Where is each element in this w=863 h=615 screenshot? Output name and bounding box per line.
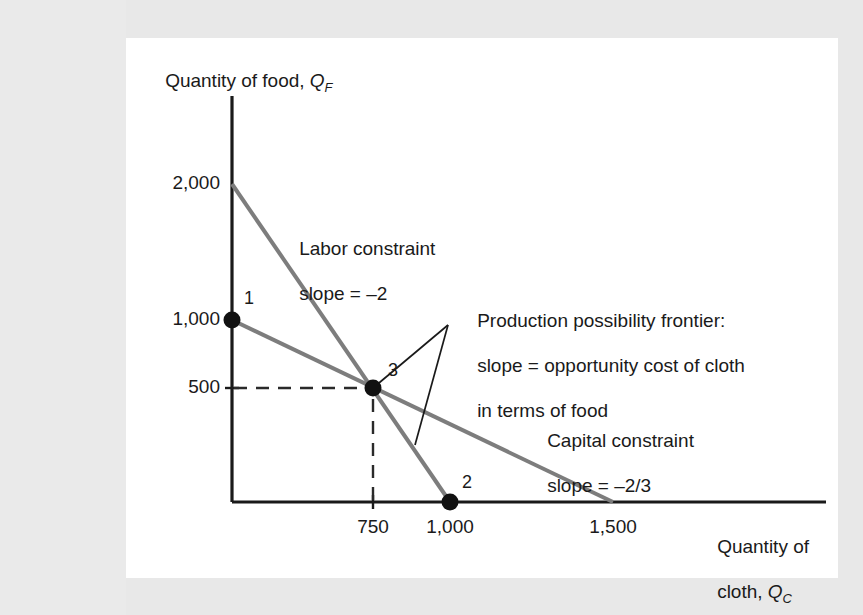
data-point-2-label: 2: [462, 472, 472, 493]
y-axis-title-subscript: F: [325, 80, 333, 95]
data-point-3-label: 3: [388, 360, 398, 381]
page-margin-left: [0, 0, 126, 615]
leader-line-to-point3: [373, 325, 448, 388]
x-axis-title-line2: cloth,: [717, 581, 768, 602]
leader-line-to-ppf-segment: [415, 325, 448, 445]
x-axis-title-variable: Q: [768, 581, 783, 602]
x-axis-title: Quantity of cloth, QC: [696, 514, 809, 615]
data-point-3-marker: [365, 380, 382, 397]
x-axis-title-subscript: C: [783, 591, 792, 606]
ppf-annotation-line3: in terms of food: [477, 400, 608, 421]
data-point-1-label: 1: [244, 288, 254, 309]
figure-panel: Quantity of food, QF 2,000 1,000 500 750…: [126, 38, 838, 578]
y-axis-title-text: Quantity of food,: [165, 70, 310, 91]
data-point-2-marker: [442, 494, 459, 511]
y-tick-label-500: 500: [132, 376, 220, 398]
x-tick-label-750: 750: [333, 516, 413, 538]
labor-constraint-annotation-line2: slope = –2: [299, 283, 387, 304]
ppf-annotation-line2: slope = opportunity cost of cloth: [477, 355, 745, 376]
ppf-annotation-line1: Production possibility frontier:: [477, 310, 725, 331]
labor-constraint-annotation-line1: Labor constraint: [299, 238, 435, 259]
x-tick-label-1000: 1,000: [408, 516, 492, 538]
capital-constraint-annotation-line2: slope = –2/3: [547, 475, 651, 496]
y-axis-title-variable: Q: [310, 70, 325, 91]
y-tick-label-2000: 2,000: [132, 172, 220, 194]
x-axis-title-line1: Quantity of: [717, 536, 809, 557]
y-tick-label-1000: 1,000: [132, 308, 220, 330]
ppf-annotation: Production possibility frontier: slope =…: [456, 288, 745, 445]
data-point-1-marker: [224, 312, 241, 329]
y-axis-title: Quantity of food, QF: [144, 48, 333, 118]
labor-constraint-annotation: Labor constraint slope = –2: [278, 216, 435, 328]
